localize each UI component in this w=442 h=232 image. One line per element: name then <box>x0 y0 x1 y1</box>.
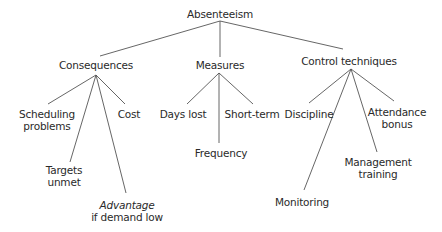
node-label: Consequences <box>59 59 133 71</box>
node-label-line: unmet <box>46 176 83 188</box>
node-attendance-bonus: Attendance bonus <box>368 106 426 130</box>
edge-root-consequences <box>100 21 220 56</box>
node-label-line: Scheduling <box>19 108 75 120</box>
node-cost: Cost <box>118 108 141 120</box>
node-control-techniques: Control techniques <box>301 55 397 67</box>
node-label-italic: Advantage <box>91 199 163 211</box>
node-frequency: Frequency <box>195 147 247 159</box>
node-label: Measures <box>196 59 245 71</box>
node-scheduling-problems: Scheduling problems <box>19 108 75 132</box>
edge-measures-dayslost <box>187 73 219 104</box>
node-consequences: Consequences <box>59 59 133 71</box>
node-label-line: Targets <box>46 164 83 176</box>
node-label-line: problems <box>19 120 75 132</box>
edge-root-control <box>220 21 343 49</box>
node-label-line: bonus <box>368 118 426 130</box>
node-label: Cost <box>118 108 141 120</box>
node-discipline: Discipline <box>285 108 334 120</box>
node-label-line: training <box>344 168 411 180</box>
node-absenteeism: Absenteeism <box>187 8 253 20</box>
node-label: Discipline <box>285 108 334 120</box>
node-measures: Measures <box>196 59 245 71</box>
node-label-line: Management <box>344 156 411 168</box>
node-monitoring: Monitoring <box>275 196 329 208</box>
node-label: Days lost <box>160 108 207 120</box>
node-label-line: if demand low <box>91 211 163 223</box>
node-management-training: Management training <box>344 156 411 180</box>
node-label: Monitoring <box>275 196 329 208</box>
node-label: Control techniques <box>301 55 397 67</box>
edge-consequences-cost <box>96 75 125 104</box>
node-label: Absenteeism <box>187 8 253 20</box>
node-short-term: Short-term <box>225 108 280 120</box>
absenteeism-tree-diagram: Absenteeism Consequences Measures Contro… <box>0 0 442 232</box>
node-label: Short-term <box>225 108 280 120</box>
node-targets-unmet: Targets unmet <box>46 164 83 188</box>
edge-control-attendance <box>351 69 394 101</box>
node-advantage-if-demand-low: Advantage if demand low <box>91 199 163 223</box>
node-days-lost: Days lost <box>160 108 207 120</box>
edge-consequences-advantage <box>96 75 126 193</box>
node-label-line: Attendance <box>368 106 426 118</box>
node-label: Frequency <box>195 147 247 159</box>
edge-measures-shortterm <box>219 73 253 104</box>
